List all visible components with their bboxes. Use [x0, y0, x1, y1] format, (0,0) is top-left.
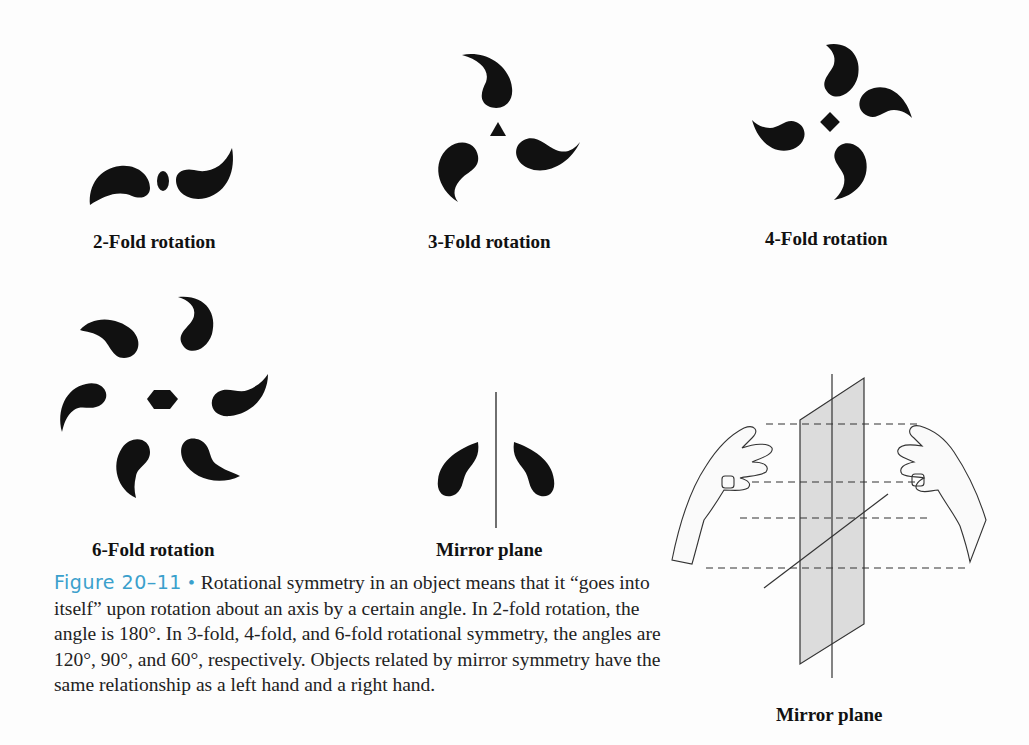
figure-caption: Figure 20–11•Rotational symmetry in an o… — [54, 570, 674, 698]
label-4-fold: 4-Fold rotation — [765, 228, 888, 250]
triangle-icon — [490, 122, 506, 136]
caption-bullet: • — [188, 572, 195, 593]
label-6-fold: 6-Fold rotation — [92, 539, 215, 561]
label-hands-mirror-plane: Mirror plane — [776, 704, 882, 726]
figure-number: Figure 20–11 — [54, 571, 182, 593]
six-fold-motif — [60, 297, 268, 498]
left-hand — [672, 427, 772, 564]
three-fold-motif — [438, 54, 580, 202]
mirror-plane-motif — [438, 392, 555, 528]
ellipse-icon — [157, 171, 169, 191]
right-hand — [898, 426, 986, 562]
square-icon — [820, 112, 840, 132]
label-3-fold: 3-Fold rotation — [428, 231, 551, 253]
label-2-fold: 2-Fold rotation — [93, 231, 216, 253]
hands-mirror-illustration — [672, 374, 986, 678]
four-fold-motif — [752, 44, 912, 200]
hexagon-icon — [147, 390, 178, 409]
two-fold-motif — [90, 148, 233, 205]
label-mirror-plane: Mirror plane — [436, 539, 542, 561]
